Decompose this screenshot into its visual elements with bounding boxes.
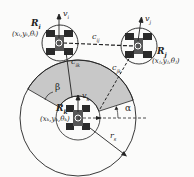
formation-diagram: Ri (xᵢ,yᵢ,θᵢ) Rj (xⱼ,yⱼ,θⱼ) Rk (xₖ,yₖ,θₖ… — [0, 0, 194, 177]
cik-label: cik — [71, 58, 80, 68]
beta-label: β — [55, 83, 60, 92]
rk-pose: (xₖ,yₖ,θₖ) — [40, 116, 70, 123]
ri-pose: (xᵢ,yᵢ,θᵢ) — [12, 31, 38, 38]
rs-label: rs — [110, 132, 116, 142]
cij-line — [63, 43, 134, 46]
ri-label: Ri — [31, 19, 41, 30]
diagram-canvas — [0, 0, 194, 177]
rs-radius — [90, 128, 124, 154]
vk-label: vk — [82, 92, 90, 102]
alpha-label: α — [125, 104, 131, 113]
rj-pose: (xⱼ,yⱼ,θⱼ) — [152, 58, 180, 65]
vj-label: vj — [145, 15, 151, 25]
robot-ri-icon — [46, 30, 73, 55]
vi-label: vi — [63, 10, 69, 20]
cjk-label: cjk — [112, 64, 121, 74]
rk-label: Rk — [56, 104, 68, 115]
cij-label: cij — [92, 33, 100, 43]
